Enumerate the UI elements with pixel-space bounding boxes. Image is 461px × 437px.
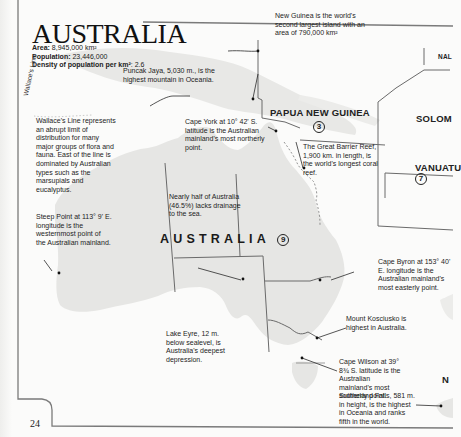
page-number: 24 xyxy=(30,418,40,429)
annotation-great-barrier-reef: The Great Barrier Reef, 1,900 km. in len… xyxy=(303,143,381,177)
annotation-cape-york: Cape York at 10° 42' S. latitude is the … xyxy=(185,118,275,152)
label-nal: NAL xyxy=(438,53,452,60)
country-stats: Area: 8,945,000 km² Population: 23,446,0… xyxy=(32,44,144,70)
label-png-number: 3 xyxy=(313,121,325,133)
land-new-zealand xyxy=(436,398,453,418)
label-solomon: SOLOM xyxy=(416,113,452,124)
annotation-drainage: Nearly half of Australia (46.5%) lacks d… xyxy=(169,193,241,219)
land-new-zealand-north xyxy=(440,294,453,320)
annotation-kosciusko: Mount Kosciusko is highest in Australia. xyxy=(346,315,416,332)
label-vanuatu: VANUATU 7 xyxy=(415,162,461,185)
label-papua-new-guinea: PAPUA NEW GUINEA xyxy=(270,107,370,118)
label-n: N xyxy=(442,374,449,385)
land-tasmania xyxy=(292,362,318,389)
annotation-wallace: Wallace's Line represents an abrupt limi… xyxy=(36,117,118,194)
annotation-lake-eyre: Lake Eyre, 12 m. below sealevel, is Aust… xyxy=(166,330,238,364)
annotation-new-guinea: New Guinea is the world's second largest… xyxy=(275,12,375,38)
annotation-cape-byron: Cape Byron at 153° 40' E. longitude is t… xyxy=(378,258,456,292)
annotation-steep-point: Steep Point at 113° 9' E. longitude is t… xyxy=(36,213,112,247)
stat-population: Population: 23,446,000 xyxy=(32,53,144,62)
label-australia: AUSTRALIA 9 xyxy=(160,232,289,246)
stat-area: Area: 8,945,000 km² xyxy=(32,44,144,53)
annotation-puncak-jaya: Puncak Jaya, 5,030 m., is the highest mo… xyxy=(123,67,233,84)
annotation-sutherland-falls: Sutherland Falls, 581 m. in height, is t… xyxy=(339,392,417,426)
